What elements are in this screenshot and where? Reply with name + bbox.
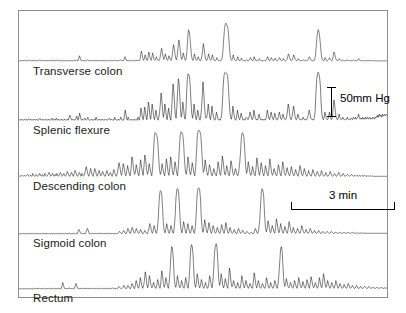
trace-path-descending-colon: [19, 129, 387, 179]
time-scale-label: 3 min: [291, 189, 395, 201]
time-scale-tick-left: [291, 202, 292, 210]
trace-transverse-colon: [19, 15, 387, 63]
time-scale-tick-right: [394, 202, 395, 210]
amplitude-scale-ibeam-icon: [327, 87, 336, 117]
time-scale-bar: 3 min: [291, 191, 395, 213]
figure-frame: Transverse colon Splenic flexure Descend…: [18, 10, 388, 298]
plot-area: Transverse colon Splenic flexure Descend…: [19, 11, 387, 297]
trace-path-rectum: [19, 241, 387, 291]
manometry-figure: Transverse colon Splenic flexure Descend…: [0, 0, 406, 313]
trace-label-rectum: Rectum: [33, 292, 73, 304]
trace-path-transverse-colon: [19, 15, 387, 63]
amplitude-scale-cap-bottom: [327, 116, 336, 117]
amplitude-scale-bar: 50mm Hg: [327, 87, 393, 117]
amplitude-scale-stem: [331, 87, 332, 117]
trace-descending-colon: [19, 129, 387, 179]
time-scale-line: [291, 209, 395, 210]
trace-rectum: [19, 241, 387, 291]
amplitude-scale-label: 50mm Hg: [340, 92, 390, 104]
